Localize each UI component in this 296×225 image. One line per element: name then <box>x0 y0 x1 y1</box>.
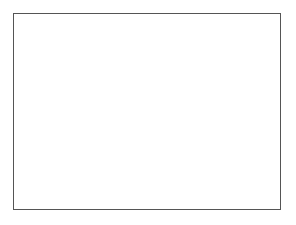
figure-border <box>13 13 281 210</box>
figure-canvas: Sustained low Ignored edges Sustained lo… <box>0 0 296 225</box>
